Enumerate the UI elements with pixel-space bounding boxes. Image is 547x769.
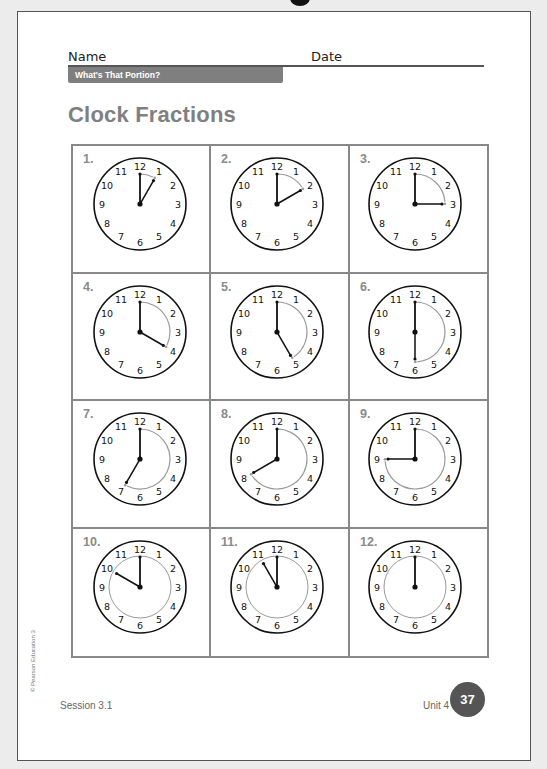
svg-text:8: 8 bbox=[379, 218, 385, 229]
svg-text:12: 12 bbox=[134, 288, 146, 299]
svg-text:2: 2 bbox=[170, 435, 176, 446]
svg-text:12: 12 bbox=[271, 288, 283, 299]
page-number-badge: 37 bbox=[450, 682, 485, 717]
clock-cell-8: 8.121234567891011 bbox=[211, 401, 350, 529]
svg-text:4: 4 bbox=[445, 473, 451, 484]
svg-text:5: 5 bbox=[431, 231, 437, 242]
svg-text:8: 8 bbox=[241, 600, 247, 611]
svg-text:6: 6 bbox=[137, 364, 143, 375]
svg-text:9: 9 bbox=[374, 454, 380, 465]
svg-text:9: 9 bbox=[99, 326, 105, 337]
svg-text:2: 2 bbox=[307, 562, 313, 573]
svg-text:9: 9 bbox=[99, 581, 105, 592]
clock-face-icon: 121234567891011 bbox=[90, 537, 190, 637]
svg-text:12: 12 bbox=[409, 543, 421, 554]
svg-text:3: 3 bbox=[312, 199, 318, 210]
svg-text:11: 11 bbox=[252, 166, 264, 177]
svg-text:7: 7 bbox=[255, 359, 261, 370]
svg-text:6: 6 bbox=[274, 237, 280, 248]
svg-text:6: 6 bbox=[274, 364, 280, 375]
svg-text:6: 6 bbox=[274, 619, 280, 630]
svg-text:5: 5 bbox=[431, 486, 437, 497]
svg-text:12: 12 bbox=[409, 161, 421, 172]
svg-text:8: 8 bbox=[379, 473, 385, 484]
section-banner: What's That Portion? bbox=[68, 67, 283, 83]
svg-text:2: 2 bbox=[445, 435, 451, 446]
svg-text:10: 10 bbox=[238, 435, 250, 446]
svg-text:5: 5 bbox=[293, 231, 299, 242]
svg-text:2: 2 bbox=[445, 562, 451, 573]
svg-text:5: 5 bbox=[293, 614, 299, 625]
svg-text:5: 5 bbox=[156, 486, 162, 497]
svg-text:10: 10 bbox=[101, 562, 113, 573]
clock-face-icon: 121234567891011 bbox=[227, 154, 327, 254]
svg-text:10: 10 bbox=[101, 307, 113, 318]
svg-text:6: 6 bbox=[412, 237, 418, 248]
svg-text:4: 4 bbox=[307, 600, 313, 611]
svg-text:1: 1 bbox=[156, 421, 162, 432]
svg-text:3: 3 bbox=[312, 454, 318, 465]
svg-text:9: 9 bbox=[99, 199, 105, 210]
clock-face-icon: 121234567891011 bbox=[365, 154, 465, 254]
clock-face-icon: 121234567891011 bbox=[90, 154, 190, 254]
clock-face-icon: 121234567891011 bbox=[227, 282, 327, 382]
svg-text:4: 4 bbox=[307, 345, 313, 356]
svg-text:4: 4 bbox=[170, 600, 176, 611]
svg-text:6: 6 bbox=[137, 619, 143, 630]
svg-text:3: 3 bbox=[175, 199, 181, 210]
svg-text:9: 9 bbox=[236, 454, 242, 465]
svg-text:2: 2 bbox=[307, 307, 313, 318]
unit-label: Unit 4 bbox=[423, 700, 449, 711]
svg-text:6: 6 bbox=[412, 492, 418, 503]
svg-text:12: 12 bbox=[134, 543, 146, 554]
svg-text:1: 1 bbox=[156, 548, 162, 559]
svg-text:6: 6 bbox=[137, 492, 143, 503]
svg-text:5: 5 bbox=[431, 614, 437, 625]
svg-text:1: 1 bbox=[431, 166, 437, 177]
svg-text:10: 10 bbox=[376, 180, 388, 191]
svg-text:10: 10 bbox=[238, 307, 250, 318]
svg-text:1: 1 bbox=[293, 166, 299, 177]
svg-text:5: 5 bbox=[293, 486, 299, 497]
svg-text:8: 8 bbox=[241, 345, 247, 356]
svg-text:9: 9 bbox=[236, 199, 242, 210]
session-label: Session 3.1 bbox=[60, 700, 112, 711]
svg-text:6: 6 bbox=[137, 237, 143, 248]
page-title: Clock Fractions bbox=[68, 102, 236, 128]
svg-text:4: 4 bbox=[445, 345, 451, 356]
svg-text:6: 6 bbox=[412, 619, 418, 630]
clock-cell-7: 7.121234567891011 bbox=[73, 401, 211, 529]
svg-text:3: 3 bbox=[450, 454, 456, 465]
svg-text:2: 2 bbox=[445, 180, 451, 191]
svg-text:11: 11 bbox=[390, 548, 402, 559]
copyright-text: © Pearson Education 3 bbox=[30, 630, 36, 692]
clock-face-icon: 121234567891011 bbox=[365, 282, 465, 382]
svg-text:4: 4 bbox=[307, 218, 313, 229]
svg-text:12: 12 bbox=[134, 416, 146, 427]
svg-text:7: 7 bbox=[118, 486, 124, 497]
date-label: Date bbox=[311, 49, 342, 64]
svg-text:5: 5 bbox=[293, 359, 299, 370]
svg-text:6: 6 bbox=[412, 364, 418, 375]
svg-text:3: 3 bbox=[175, 326, 181, 337]
svg-text:1: 1 bbox=[293, 548, 299, 559]
svg-text:11: 11 bbox=[115, 166, 127, 177]
svg-text:12: 12 bbox=[271, 161, 283, 172]
svg-text:1: 1 bbox=[431, 421, 437, 432]
clock-cell-11: 11.121234567891011 bbox=[211, 529, 350, 657]
svg-text:3: 3 bbox=[450, 199, 456, 210]
svg-text:7: 7 bbox=[393, 359, 399, 370]
svg-text:1: 1 bbox=[293, 293, 299, 304]
svg-text:4: 4 bbox=[170, 473, 176, 484]
svg-text:8: 8 bbox=[241, 218, 247, 229]
svg-text:3: 3 bbox=[175, 581, 181, 592]
svg-text:1: 1 bbox=[156, 293, 162, 304]
svg-text:2: 2 bbox=[445, 307, 451, 318]
svg-text:3: 3 bbox=[312, 326, 318, 337]
clock-face-icon: 121234567891011 bbox=[90, 409, 190, 509]
svg-text:7: 7 bbox=[255, 486, 261, 497]
svg-text:11: 11 bbox=[115, 421, 127, 432]
svg-text:7: 7 bbox=[118, 614, 124, 625]
svg-text:11: 11 bbox=[390, 293, 402, 304]
svg-text:10: 10 bbox=[101, 435, 113, 446]
